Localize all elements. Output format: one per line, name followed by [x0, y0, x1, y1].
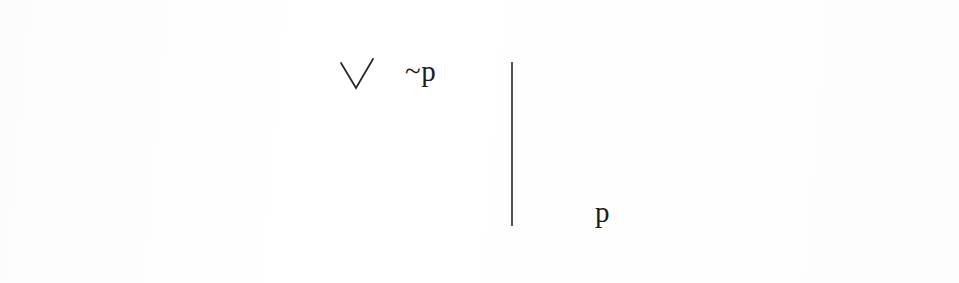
scanned-page: ~p p	[0, 0, 959, 283]
negated-p-label: ~p	[405, 57, 436, 86]
p-label: p	[595, 198, 610, 227]
diagram-frame	[50, 21, 918, 255]
